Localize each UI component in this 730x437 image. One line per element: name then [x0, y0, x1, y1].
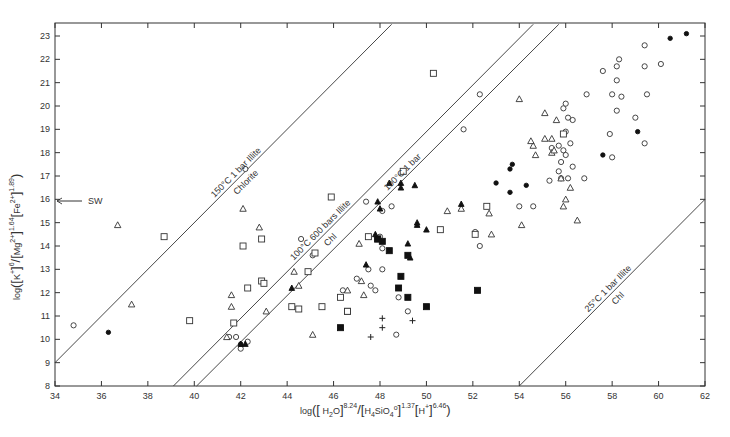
- open-triangle-marker: [528, 138, 534, 144]
- open-circle-marker: [373, 288, 378, 293]
- open-triangle-marker: [574, 217, 580, 223]
- open-square-marker: [484, 203, 490, 209]
- open-triangle-marker: [296, 282, 302, 288]
- open-circle-marker: [517, 204, 522, 209]
- open-square-marker: [345, 308, 351, 314]
- filled-circle-marker: [494, 181, 498, 185]
- open-triangle-marker: [549, 135, 555, 141]
- line-label-above: 25°C 1 bar Illite: [583, 263, 634, 314]
- y-tick-label: 21: [40, 78, 50, 88]
- open-circle-marker: [610, 92, 615, 97]
- open-triangle-marker: [560, 203, 566, 209]
- x-tick-label: 38: [143, 391, 153, 401]
- open-triangle-marker: [516, 96, 522, 102]
- y-tick-label: 19: [40, 124, 50, 134]
- boundary-line-25C-1bar: [519, 199, 705, 386]
- open-circle-marker: [582, 176, 587, 181]
- open-circle-marker: [568, 141, 573, 146]
- y-tick-label: 9: [45, 358, 50, 368]
- open-circle-marker: [363, 199, 368, 204]
- boundary-line-150C-1bar: [55, 24, 392, 362]
- open-circle-marker: [570, 164, 575, 169]
- open-square-marker: [187, 318, 193, 324]
- open-triangle-marker: [128, 301, 134, 307]
- open-triangle-marker: [553, 117, 559, 123]
- open-circle-marker: [477, 92, 482, 97]
- open-triangle-marker: [309, 331, 315, 337]
- open-circle-marker: [617, 57, 622, 62]
- x-tick-label: 46: [329, 391, 339, 401]
- boundary-line-100C-1bar: [197, 24, 559, 386]
- open-square-marker: [231, 320, 237, 326]
- open-circle-marker: [642, 43, 647, 48]
- open-circle-marker: [380, 267, 385, 272]
- x-tick-label: 62: [700, 391, 710, 401]
- open-square-marker: [319, 304, 325, 310]
- open-circle-marker: [389, 204, 394, 209]
- open-square-marker: [289, 304, 295, 310]
- open-triangle-marker: [263, 308, 269, 314]
- filled-circle-marker: [635, 129, 639, 133]
- open-square-marker: [472, 231, 478, 237]
- filled-square-marker: [338, 325, 344, 331]
- open-circle-marker: [71, 323, 76, 328]
- x-tick-label: 58: [607, 391, 617, 401]
- open-triangle-marker: [291, 268, 297, 274]
- open-circle-marker: [642, 64, 647, 69]
- filled-triangle-marker: [289, 285, 295, 290]
- x-tick-label: 56: [561, 391, 571, 401]
- open-square-marker: [259, 236, 265, 242]
- y-tick-label: 17: [40, 171, 50, 181]
- open-circle-marker: [531, 204, 536, 209]
- x-tick-label: 44: [282, 391, 292, 401]
- filled-square-marker: [405, 252, 411, 258]
- open-square-marker: [296, 306, 302, 312]
- filled-triangle-marker: [412, 182, 418, 187]
- filled-triangle-marker: [424, 227, 430, 232]
- y-tick-label: 18: [40, 148, 50, 158]
- open-triangle-marker: [114, 222, 120, 228]
- x-tick-label: 54: [514, 391, 524, 401]
- open-circle-marker: [563, 152, 568, 157]
- filled-square-marker: [396, 285, 402, 291]
- x-tick-label: 40: [189, 391, 199, 401]
- line-labels: 150°C 1 bar IlliteChlorite100°C 600 bars…: [209, 145, 633, 314]
- open-circle-marker: [610, 155, 615, 160]
- open-square-marker: [560, 131, 566, 137]
- y-tick-label: 15: [40, 218, 50, 228]
- open-triangle-marker: [567, 184, 573, 190]
- open-square-marker: [305, 269, 311, 275]
- y-tick-label: 22: [40, 54, 50, 64]
- open-circle-marker: [547, 178, 552, 183]
- open-square-marker: [240, 243, 246, 249]
- open-triangle-marker: [532, 152, 538, 158]
- filled-circle-marker: [106, 330, 110, 334]
- open-circle-marker: [565, 176, 570, 181]
- open-circle-marker: [614, 108, 619, 113]
- open-circle-marker: [354, 276, 359, 281]
- y-tick-label: 16: [40, 194, 50, 204]
- open-square-marker: [328, 194, 334, 200]
- open-circle-marker: [600, 68, 605, 73]
- open-circle-marker: [607, 131, 612, 136]
- open-square-marker: [312, 250, 318, 256]
- x-tick-label: 34: [50, 391, 60, 401]
- x-tick-label: 48: [375, 391, 385, 401]
- scatter-chart: 3436384042444648505254565860628910111213…: [0, 0, 730, 437]
- open-circle-marker: [614, 64, 619, 69]
- open-circle-marker: [584, 92, 589, 97]
- filled-circle-marker: [508, 167, 512, 171]
- open-triangle-marker: [542, 135, 548, 141]
- filled-circle-marker: [524, 183, 528, 187]
- open-circle-marker: [396, 295, 401, 300]
- y-tick-label: 10: [40, 334, 50, 344]
- open-triangle-marker: [488, 231, 494, 237]
- open-circle-marker: [405, 309, 410, 314]
- y-tick-label: 8: [45, 381, 50, 391]
- open-circle-marker: [658, 61, 663, 66]
- filled-triangle-marker: [458, 201, 464, 206]
- open-triangle-marker: [444, 208, 450, 214]
- open-circle-marker: [556, 143, 561, 148]
- open-circle-marker: [563, 101, 568, 106]
- open-triangle-marker: [256, 224, 262, 230]
